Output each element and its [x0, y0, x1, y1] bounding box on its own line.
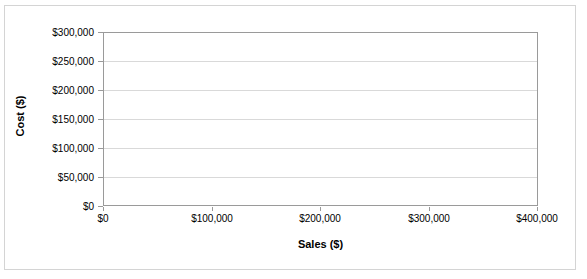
- x-axis-tick-label: $300,000: [384, 214, 474, 224]
- x-tick-mark: [320, 207, 321, 211]
- chart-container: $300,000 $250,000 $200,000 $150,000 $100…: [0, 0, 587, 279]
- y-axis-tick-label: $50,000: [32, 173, 94, 183]
- y-axis-tick-label: $150,000: [32, 115, 94, 125]
- y-tick-mark: [98, 119, 103, 120]
- gridline-250000: [104, 61, 537, 62]
- y-axis-tick-label: $200,000: [32, 86, 94, 96]
- y-tick-mark: [98, 148, 103, 149]
- plot-area: [103, 32, 538, 206]
- gridline-50000: [104, 177, 537, 178]
- x-tick-mark: [212, 207, 213, 211]
- x-axis-tick-label: $400,000: [492, 214, 582, 224]
- gridline-150000: [104, 119, 537, 120]
- x-tick-mark: [537, 207, 538, 211]
- y-axis-tick-label: $300,000: [32, 28, 94, 38]
- gridline-100000: [104, 148, 537, 149]
- x-axis-tick-label: $100,000: [167, 214, 257, 224]
- x-tick-mark: [429, 207, 430, 211]
- x-axis-tick-label: $0: [58, 214, 148, 224]
- y-tick-mark: [98, 90, 103, 91]
- x-axis-title: Sales ($): [103, 238, 538, 250]
- y-axis-title: Cost ($): [14, 66, 26, 166]
- y-tick-mark: [98, 177, 103, 178]
- y-tick-mark: [98, 61, 103, 62]
- y-axis-tick-label: $100,000: [32, 144, 94, 154]
- x-tick-mark: [103, 207, 104, 211]
- x-axis-tick-label: $200,000: [275, 214, 365, 224]
- y-axis-tick-label: $0: [32, 202, 94, 212]
- y-tick-mark: [98, 32, 103, 33]
- gridline-200000: [104, 90, 537, 91]
- y-axis-tick-label: $250,000: [32, 57, 94, 67]
